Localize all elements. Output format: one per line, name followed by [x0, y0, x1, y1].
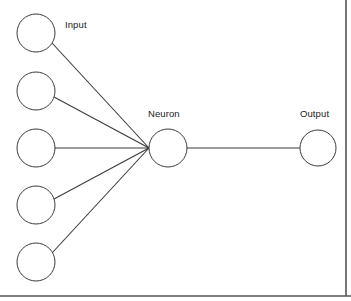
diagram-canvas [0, 0, 351, 301]
neuron-diagram: Input Neuron Output [0, 0, 351, 301]
input-node-4 [17, 186, 55, 224]
edge-input-4-neuron [54, 148, 149, 199]
neuron-node [149, 129, 187, 167]
edge-input-1-neuron [52, 43, 149, 148]
input-node-2 [17, 72, 55, 110]
input-label: Input [65, 19, 87, 30]
edge-input-5-neuron [52, 148, 149, 253]
input-node-1 [17, 14, 55, 52]
input-node-3 [17, 129, 55, 167]
output-label: Output [300, 108, 329, 119]
edge-input-2-neuron [54, 97, 149, 148]
output-node [300, 130, 336, 166]
input-node-5 [17, 243, 55, 281]
neuron-label: Neuron [148, 108, 180, 119]
